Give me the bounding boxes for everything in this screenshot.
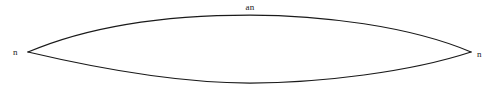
lens-shape-canvas (0, 0, 500, 90)
left-vertex-label: n (13, 48, 18, 57)
lens-bottom-arc (28, 52, 471, 83)
right-vertex-label: n (477, 50, 482, 59)
top-label: an (0, 3, 500, 12)
lens-diagram-figure: an n n (0, 0, 500, 90)
lens-top-arc (28, 15, 471, 52)
